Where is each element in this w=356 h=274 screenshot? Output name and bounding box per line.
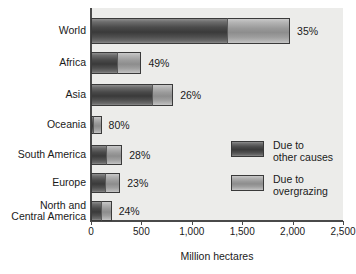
bar-segment-overgrazing (227, 18, 290, 44)
category-label-north-and-central-america: North and Central America (11, 200, 86, 223)
bar-segment-other-causes (91, 201, 101, 221)
bar-segment-other-causes (91, 173, 105, 193)
legend-swatch (231, 175, 264, 191)
x-tick-label: 1,000 (179, 226, 204, 238)
legend-label: Due to overgrazing (273, 174, 328, 197)
category-label-asia: Asia (66, 89, 86, 101)
category-label-south-america: South America (18, 149, 86, 161)
x-axis-line (90, 220, 343, 222)
bar-row (91, 116, 102, 134)
bar-percent-label: 24% (119, 205, 140, 217)
bar-row (91, 145, 122, 165)
x-tick-mark (141, 221, 142, 225)
bar-row (91, 52, 141, 74)
legend-entry: Due to other causes (231, 140, 333, 163)
bar-segment-overgrazing (117, 52, 142, 74)
bar-percent-label: 35% (297, 25, 318, 37)
bar-percent-label: 23% (127, 177, 148, 189)
bar-segment-overgrazing (106, 145, 123, 165)
legend-swatch (231, 141, 264, 157)
category-label-africa: Africa (59, 57, 86, 69)
bar-percent-label: 80% (109, 119, 130, 131)
x-tick-label: 0 (88, 226, 94, 238)
bar-row (91, 173, 120, 193)
bar-segment-overgrazing (101, 201, 112, 221)
bar-row (91, 201, 112, 221)
bar-segment-overgrazing (152, 84, 173, 106)
bar-segment-overgrazing (93, 116, 102, 134)
x-tick-mark (242, 221, 243, 225)
category-label-oceania: Oceania (47, 119, 86, 131)
bar-row (91, 18, 290, 44)
x-tick-mark (91, 221, 92, 225)
x-tick-mark (293, 221, 294, 225)
category-label-europe: Europe (52, 177, 86, 189)
chart-legend: Due to other causesDue to overgrazing (231, 140, 333, 208)
bar-segment-other-causes (91, 52, 117, 74)
x-axis-title: Million hectares (91, 250, 343, 262)
bar-percent-label: 26% (180, 89, 201, 101)
x-tick-mark (192, 221, 193, 225)
category-label-world: World (59, 25, 86, 37)
x-tick-mark (343, 221, 344, 225)
x-tick-label: 2,500 (330, 226, 355, 238)
legend-entry: Due to overgrazing (231, 174, 333, 197)
x-tick-label: 500 (133, 226, 150, 238)
bar-segment-overgrazing (105, 173, 121, 193)
bar-segment-other-causes (91, 84, 152, 106)
bar-row (91, 84, 173, 106)
bar-percent-label: 49% (148, 57, 169, 69)
x-tick-label: 2,000 (280, 226, 305, 238)
bar-segment-other-causes (91, 145, 106, 165)
legend-label: Due to other causes (273, 140, 333, 163)
bar-segment-other-causes (91, 18, 227, 44)
x-tick-label: 1,500 (230, 226, 255, 238)
bar-percent-label: 28% (129, 149, 150, 161)
